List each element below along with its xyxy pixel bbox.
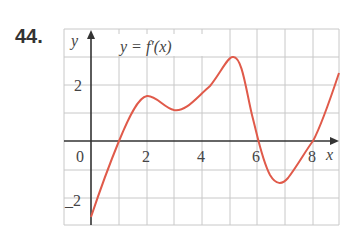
x-tick-8: 8 [308,148,316,165]
x-tick-6: 6 [252,148,260,165]
graph-title: y = f′(x) [118,38,172,56]
x-tick-0: 0 [76,148,84,165]
graph: y = f′(x) y x 2 _2 0 2 4 6 8 [0,0,359,239]
x-axis-arrow-icon [330,137,339,145]
y-axis-label: y [69,32,79,50]
curve-f-prime [91,57,339,217]
x-axis-label: x [325,146,333,163]
y-tick-neg2: _2 [64,192,81,209]
grid [64,29,339,225]
x-tick-4: 4 [197,148,205,165]
y-tick-2: 2 [74,77,82,94]
y-axis-arrow-icon [87,30,95,39]
x-tick-2: 2 [142,148,150,165]
